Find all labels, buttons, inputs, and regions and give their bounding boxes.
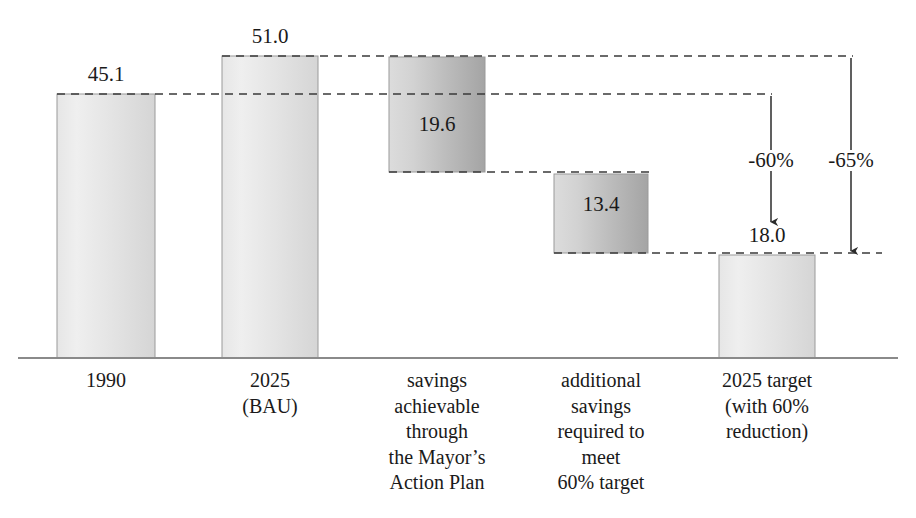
bar-2025-bau: [222, 56, 318, 358]
waterfall-chart: 45.151.019.613.418.0 -60%-65% 19902025(B…: [0, 0, 916, 518]
x-label-additional-savings-line-0: additional: [527, 368, 675, 394]
bar-2025-target-value-label: 18.0: [719, 225, 815, 246]
bar-1990-value-label: 45.1: [57, 64, 155, 85]
x-label-savings-action-plan-line-4: Action Plan: [367, 470, 507, 496]
bar-savings-action-plan-value-label: 19.6: [389, 114, 485, 135]
x-label-savings-action-plan-line-3: the Mayor’s: [367, 445, 507, 471]
x-label-additional-savings-line-3: meet: [527, 445, 675, 471]
plot-area: 45.151.019.613.418.0 -60%-65% 19902025(B…: [0, 0, 916, 518]
arrow-65-percent-label: -65%: [806, 150, 896, 171]
bar-2025-target: [719, 255, 815, 358]
x-label-2025-target: 2025 target(with 60%reduction): [693, 368, 841, 445]
x-label-2025-target-line-0: 2025 target: [693, 368, 841, 394]
x-label-2025-bau-line-0: 2025: [210, 368, 330, 394]
x-label-additional-savings-line-1: savings: [527, 394, 675, 420]
x-label-additional-savings-line-2: required to: [527, 419, 675, 445]
x-label-additional-savings: additionalsavingsrequired tomeet60% targ…: [527, 368, 675, 496]
x-label-savings-action-plan-line-0: savings: [367, 368, 507, 394]
x-label-2025-bau: 2025(BAU): [210, 368, 330, 419]
x-label-savings-action-plan-line-1: achievable: [367, 394, 507, 420]
x-label-2025-bau-line-1: (BAU): [210, 394, 330, 420]
x-label-1990: 1990: [46, 368, 166, 394]
x-label-2025-target-line-1: (with 60%: [693, 394, 841, 420]
x-label-savings-action-plan: savingsachievablethroughthe Mayor’sActio…: [367, 368, 507, 496]
x-label-2025-target-line-2: reduction): [693, 419, 841, 445]
bars-layer: [57, 56, 815, 358]
x-label-1990-line-0: 1990: [46, 368, 166, 394]
arrow-60-percent-label: -60%: [726, 150, 816, 171]
bar-additional-savings-value-label: 13.4: [554, 194, 648, 215]
x-label-savings-action-plan-line-2: through: [367, 419, 507, 445]
x-label-additional-savings-line-4: 60% target: [527, 470, 675, 496]
bar-1990: [57, 94, 155, 358]
bar-2025-bau-value-label: 51.0: [222, 26, 318, 47]
